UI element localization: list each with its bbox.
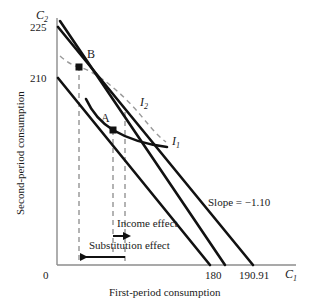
income-effect-label: Income effect (117, 218, 178, 229)
curve-label-i1: I1 (172, 135, 180, 150)
y-axis-symbol-letter: C (36, 8, 44, 22)
curve-label-i2: I2 (140, 96, 148, 111)
x-axis-title: First-period consumption (109, 287, 221, 298)
x-tick-180: 180 (205, 270, 222, 281)
curve-label-i2-sub: 2 (144, 102, 148, 111)
x-tick-0: 0 (43, 270, 49, 281)
y-tick-225: 225 (30, 22, 47, 33)
point-label-b: B (87, 48, 95, 60)
point-label-a: A (101, 112, 110, 124)
x-axis-symbol-sub: 1 (293, 274, 297, 283)
substitution-effect-label: Substitution effect (89, 240, 170, 251)
slope-label: Slope = −1.10 (208, 197, 270, 208)
x-axis-symbol: C1 (285, 268, 297, 283)
x-tick-190-91: 190.91 (239, 270, 269, 281)
y-axis-title: Second-period consumption (14, 91, 26, 215)
x-axis-symbol-letter: C (285, 267, 293, 281)
figure-intertemporal-choice: C2 225 210 0 180 190.91 C1 B A I2 I1 Slo… (0, 0, 311, 302)
y-tick-210: 210 (30, 73, 47, 84)
effect-arrows-layer (0, 0, 311, 302)
curve-label-i1-sub: 1 (176, 141, 180, 150)
